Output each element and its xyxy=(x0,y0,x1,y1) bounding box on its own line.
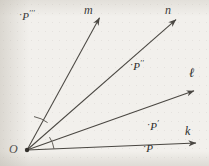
ray-label-m: m xyxy=(84,4,93,16)
vertex-label-o: O xyxy=(9,143,18,155)
ray-k-line xyxy=(27,143,196,150)
vertex-dot xyxy=(25,148,29,152)
angle-arc-upper xyxy=(34,117,48,123)
ray-label-l: ℓ xyxy=(189,66,194,79)
ray-label-k: k xyxy=(185,125,190,137)
point-label-P-double-prime: ·P′′ xyxy=(130,60,144,72)
ray-m-line xyxy=(27,18,100,150)
point-letter-P: P xyxy=(146,142,153,154)
point-label-P-triple-prime: ·P′′′ xyxy=(19,10,35,22)
point-label-P: ·P xyxy=(143,142,153,154)
point-primes-P-double-prime: ′′ xyxy=(140,59,144,68)
point-primes-P-triple-prime: ′′′ xyxy=(29,9,35,18)
point-label-P-prime: ·P′ xyxy=(147,120,159,132)
geometry-figure: k ℓ n m O ·P ·P′ ·P′′ ·P′′′ xyxy=(0,0,209,166)
point-primes-P-prime: ′ xyxy=(157,119,159,128)
ray-label-n: n xyxy=(165,4,171,16)
angle-arc-lower xyxy=(50,137,55,149)
figure-canvas xyxy=(0,0,209,166)
